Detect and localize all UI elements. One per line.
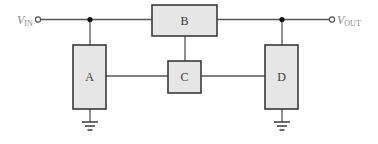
block-d: D [265,45,298,109]
vin-label: VIN [17,13,33,28]
block-d-label: D [277,70,286,84]
input-terminal [35,17,40,22]
block-a-label: A [85,70,94,84]
ground-icon-d [274,122,290,130]
block-b: B [152,5,217,36]
junction-dot-right [279,17,284,22]
output-terminal [329,17,334,22]
block-b-label: B [180,14,188,28]
block-c: C [168,61,201,93]
block-diagram: VIN VOUT B A C D [0,0,378,144]
vout-label: VOUT [337,13,361,28]
block-a: A [73,45,106,109]
ground-icon-a [82,122,98,130]
block-c-label: C [180,70,188,84]
junction-dot-left [87,17,92,22]
